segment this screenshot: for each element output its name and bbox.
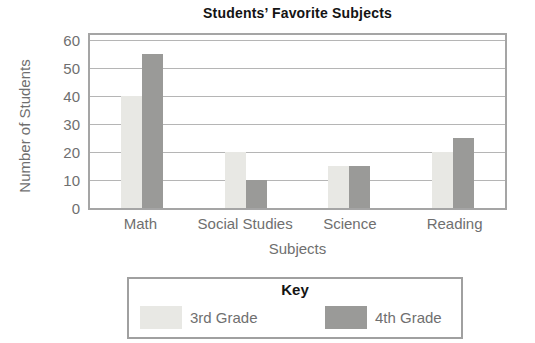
bar-3rd-grade-reading: [432, 152, 453, 208]
bar-3rd-grade-math: [121, 96, 142, 208]
x-axis-category-labels: MathSocial StudiesScienceReading: [88, 215, 507, 232]
bar-group-reading: [401, 35, 505, 208]
y-tick-label-10: 10: [38, 172, 80, 190]
legend-entry-4th-grade: 4th Grade: [325, 306, 442, 329]
bar-group-math: [90, 35, 194, 208]
legend-swatch-4th-grade: [325, 306, 367, 329]
legend-entries: 3rd Grade4th Grade: [129, 279, 461, 337]
legend-label-3rd-grade: 3rd Grade: [190, 309, 258, 326]
legend-entry-3rd-grade: 3rd Grade: [140, 306, 258, 329]
bar-group-science: [298, 35, 402, 208]
bar-4th-grade-math: [142, 54, 163, 208]
legend-label-4th-grade: 4th Grade: [375, 309, 442, 326]
x-category-label-math: Math: [88, 215, 193, 232]
bar-4th-grade-social-studies: [246, 180, 267, 208]
y-tick-label-50: 50: [38, 60, 80, 78]
bars-layer: [90, 35, 505, 208]
y-tick-label-0: 0: [38, 200, 80, 218]
y-axis-tick-labels: 0102030405060: [38, 0, 80, 250]
bar-3rd-grade-science: [328, 166, 349, 208]
y-tick-label-20: 20: [38, 144, 80, 162]
bar-3rd-grade-social-studies: [225, 152, 246, 208]
legend: Key 3rd Grade4th Grade: [127, 277, 463, 339]
bar-group-social-studies: [194, 35, 298, 208]
y-tick-label-40: 40: [38, 88, 80, 106]
x-axis-title: Subjects: [88, 240, 507, 257]
x-category-label-reading: Reading: [402, 215, 507, 232]
chart-title: Students’ Favorite Subjects: [88, 5, 507, 21]
plot-area: [88, 33, 507, 210]
bar-4th-grade-science: [349, 166, 370, 208]
y-tick-label-30: 30: [38, 116, 80, 134]
y-axis-title: Number of Students: [16, 35, 34, 217]
x-category-label-science: Science: [298, 215, 403, 232]
x-category-label-social-studies: Social Studies: [193, 215, 298, 232]
bar-chart: Students’ Favorite Subjects Number of St…: [0, 0, 535, 343]
y-tick-label-60: 60: [38, 32, 80, 50]
legend-swatch-3rd-grade: [140, 306, 182, 329]
bar-4th-grade-reading: [453, 138, 474, 208]
